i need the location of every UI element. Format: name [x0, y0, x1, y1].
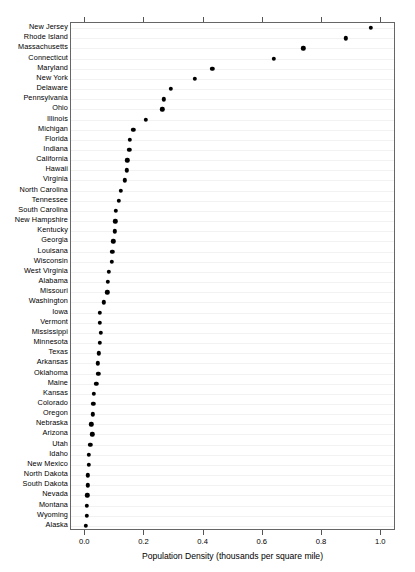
gridline [71, 495, 394, 496]
data-point [91, 412, 95, 416]
data-point [102, 300, 106, 304]
data-point [83, 524, 87, 528]
gridline [71, 109, 394, 110]
category-label: Massachusetts [2, 43, 68, 51]
data-point [84, 503, 88, 507]
gridline [71, 485, 394, 486]
gridline [71, 48, 394, 49]
category-label: North Carolina [2, 186, 68, 194]
gridline [71, 89, 394, 90]
category-label: Texas [2, 348, 68, 356]
gridline [71, 272, 394, 273]
data-point [98, 341, 102, 345]
category-label: Missouri [2, 287, 68, 295]
gridline [71, 445, 394, 446]
category-label: Virginia [2, 175, 68, 183]
gridline [71, 353, 394, 354]
gridline [71, 79, 394, 80]
data-point [88, 442, 92, 446]
data-point [343, 36, 347, 40]
x-tick-bottom [203, 530, 204, 535]
gridline [71, 363, 394, 364]
category-label: Nebraska [2, 419, 68, 427]
plot-area [70, 22, 395, 530]
category-label: Arkansas [2, 358, 68, 366]
data-point [144, 117, 148, 121]
data-point [97, 351, 101, 355]
data-point [98, 310, 102, 314]
gridline [71, 180, 394, 181]
gridline [71, 384, 394, 385]
gridline [71, 465, 394, 466]
category-label: New Mexico [2, 460, 68, 468]
data-point [113, 219, 117, 223]
x-tick-label: 0.2 [138, 537, 149, 546]
x-tick-label: 1.0 [375, 537, 386, 546]
data-point [193, 77, 197, 81]
x-tick-top [143, 17, 144, 22]
gridline [71, 170, 394, 171]
data-point [210, 67, 214, 71]
category-label: Kentucky [2, 226, 68, 234]
gridline [71, 292, 394, 293]
gridline [71, 404, 394, 405]
gridline [71, 69, 394, 70]
category-label: Pennsylvania [2, 94, 68, 102]
gridline [71, 302, 394, 303]
category-label: Mississippi [2, 328, 68, 336]
gridline [71, 59, 394, 60]
gridline [71, 221, 394, 222]
data-point [301, 46, 305, 50]
data-point [369, 26, 373, 30]
data-point [131, 127, 135, 131]
category-label: Idaho [2, 450, 68, 458]
gridline [71, 506, 394, 507]
category-label: New Jersey [2, 23, 68, 31]
data-point [119, 188, 123, 192]
x-tick-label: 0.0 [79, 537, 90, 546]
data-point [92, 392, 96, 396]
data-point [86, 483, 90, 487]
gridline [71, 394, 394, 395]
gridline [71, 526, 394, 527]
gridline [71, 313, 394, 314]
gridline [71, 333, 394, 334]
x-tick-bottom [262, 530, 263, 535]
data-point [110, 249, 114, 253]
gridline [71, 252, 394, 253]
dot-plot-figure: New JerseyRhode IslandMassachusettsConne… [0, 0, 415, 572]
category-label: Utah [2, 440, 68, 448]
data-point [84, 514, 88, 518]
category-label: Washington [2, 297, 68, 305]
category-label: Vermont [2, 318, 68, 326]
gridline [71, 99, 394, 100]
category-axis-labels: New JerseyRhode IslandMassachusettsConne… [0, 22, 68, 530]
data-point [116, 199, 120, 203]
category-label: Delaware [2, 84, 68, 92]
gridline [71, 434, 394, 435]
data-point [124, 168, 128, 172]
category-label: Alaska [2, 521, 68, 529]
data-point [98, 321, 102, 325]
data-point [96, 361, 100, 365]
category-label: Indiana [2, 145, 68, 153]
gridline [71, 241, 394, 242]
category-label: West Virginia [2, 267, 68, 275]
gridline [71, 343, 394, 344]
data-point [91, 402, 95, 406]
data-point [107, 270, 111, 274]
x-tick-top [262, 17, 263, 22]
data-point [87, 453, 91, 457]
category-label: Iowa [2, 308, 68, 316]
gridline [71, 282, 394, 283]
category-label: Georgia [2, 236, 68, 244]
data-point [127, 148, 131, 152]
gridline [71, 516, 394, 517]
category-label: North Dakota [2, 470, 68, 478]
category-label: Oklahoma [2, 369, 68, 377]
category-label: Michigan [2, 125, 68, 133]
x-tick-bottom [84, 530, 85, 535]
gridline [71, 424, 394, 425]
gridline [71, 130, 394, 131]
data-point [90, 432, 94, 436]
